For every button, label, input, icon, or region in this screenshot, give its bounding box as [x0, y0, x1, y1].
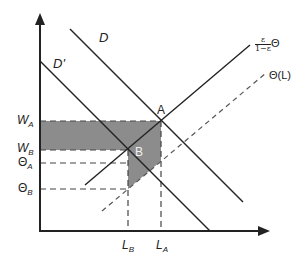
label-supply-theta: Θ [271, 38, 280, 49]
label-theta-curve: Θ(L) [269, 70, 291, 81]
supply-den: 1−ε [255, 45, 271, 53]
tick-theta-a: ΘA [18, 156, 33, 171]
label-point-b: B [135, 146, 143, 158]
label-d-prime: D' [53, 57, 65, 70]
tick-lb: LB [122, 239, 134, 254]
tick-wa: WA [17, 114, 34, 129]
tick-la: LA [156, 239, 168, 254]
label-point-a: A [157, 104, 165, 116]
label-supply-fraction: ε 1−ε [255, 36, 271, 53]
label-d: D [99, 31, 108, 44]
x-axis-arrow [258, 226, 270, 236]
supply-curve [85, 45, 250, 185]
y-axis-arrow [35, 13, 45, 25]
diagram: D D' ε 1−ε Θ Θ(L) A B WA WB ΘA ΘB LB LA [0, 0, 307, 266]
tick-theta-b: ΘB [18, 182, 33, 197]
